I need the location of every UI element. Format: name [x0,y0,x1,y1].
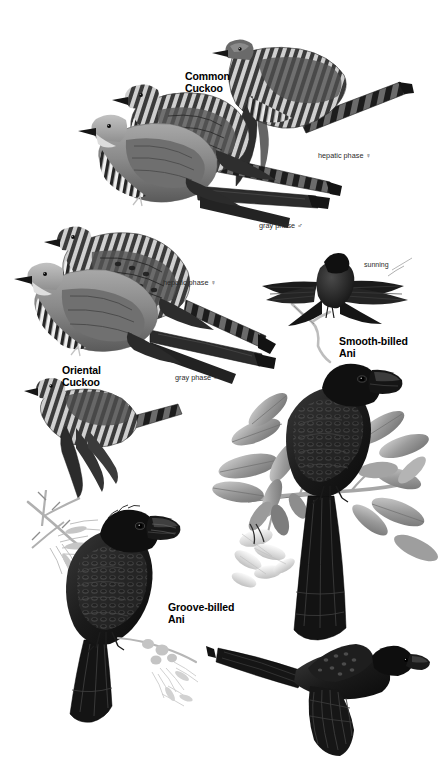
phase-label-common-cuckoo-hepatic: hepatic phase ♀ [318,152,371,160]
bird-field-guide-plate: Common Cuckoo Oriental Cuckoo Smooth-bil… [0,0,443,765]
phase-label-common-cuckoo-gray: gray phase ♂ [259,222,303,230]
species-label-groove-billed-ani: Groove-billed Ani [168,602,234,625]
species-label-oriental-cuckoo: Oriental Cuckoo [62,365,101,388]
phase-label-oriental-cuckoo-gray: gray phase ♂ [175,374,219,382]
phase-label-oriental-cuckoo-hepatic: hepatic phase ♀ [163,279,216,287]
callout-label-sunning: sunning [364,261,389,269]
species-label-smooth-billed-ani: Smooth-billed Ani [339,336,408,359]
species-label-common-cuckoo: Common Cuckoo [185,71,230,94]
